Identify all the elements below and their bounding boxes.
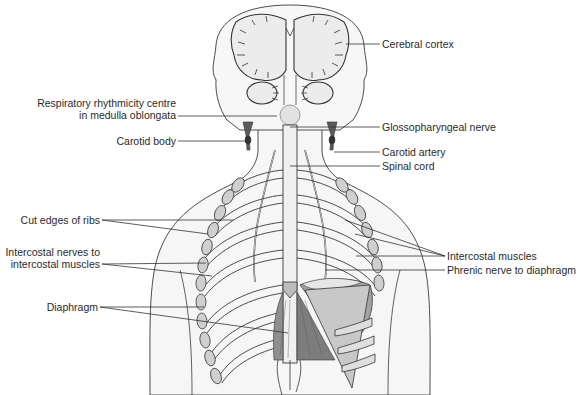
label-intercostal-nerves-line2: intercostal muscles [0,258,100,270]
label-glossopharyngeal-nerve: Glossopharyngeal nerve [382,121,496,133]
label-intercostal-nerves: Intercostal nerves to intercostal muscle… [0,246,100,270]
label-respiratory-centre-line2: in medulla oblongata [28,109,176,121]
label-carotid-body: Carotid body [60,135,176,147]
label-intercostal-nerves-line1: Intercostal nerves to [0,246,100,258]
head [213,5,367,130]
label-phrenic-nerve: Phrenic nerve to diaphragm [447,264,576,276]
label-cerebral-cortex: Cerebral cortex [382,38,454,50]
label-respiratory-centre-line1: Respiratory rhythmicity centre [28,97,176,109]
label-spinal-cord: Spinal cord [382,160,435,172]
respiratory-anatomy-illustration [0,0,580,395]
label-diaphragm: Diaphragm [20,301,98,313]
label-cut-edges-ribs: Cut edges of ribs [10,214,100,226]
spinal-cord [283,125,297,363]
label-carotid-artery: Carotid artery [382,146,446,158]
label-respiratory-centre: Respiratory rhythmicity centre in medull… [28,97,176,121]
label-intercostal-muscles: Intercostal muscles [447,250,537,262]
